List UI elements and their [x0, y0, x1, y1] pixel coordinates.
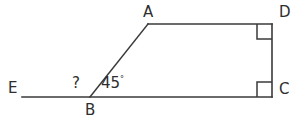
vertex-label-a: A — [143, 5, 153, 20]
geometry-figure: A B C D E ? 45° — [0, 0, 300, 121]
angle-45-value: 45 — [101, 74, 120, 92]
right-angle-marker-d-icon — [257, 24, 272, 39]
vertex-label-c: C — [279, 82, 289, 97]
vertex-label-d: D — [279, 5, 291, 20]
degree-symbol-icon: ° — [120, 75, 124, 84]
vertex-label-e: E — [8, 81, 17, 96]
vertex-label-b: B — [85, 103, 95, 118]
angle-45-label: 45° — [101, 76, 124, 91]
right-angle-marker-c-icon — [257, 82, 272, 97]
unknown-angle-label: ? — [72, 76, 80, 91]
